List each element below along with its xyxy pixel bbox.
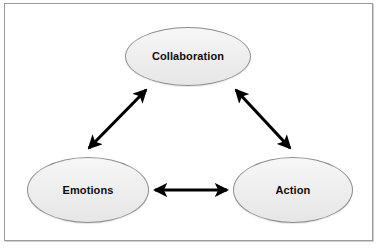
node-collaboration-label: Collaboration bbox=[152, 51, 224, 62]
diagram-canvas: Collaboration Emotions Action bbox=[0, 0, 380, 250]
connector-collaboration-action bbox=[236, 90, 290, 148]
connector-emotions-collaboration bbox=[89, 90, 146, 148]
node-collaboration[interactable]: Collaboration bbox=[125, 27, 251, 86]
node-emotions-label: Emotions bbox=[63, 185, 114, 196]
node-action[interactable]: Action bbox=[233, 157, 353, 223]
node-emotions[interactable]: Emotions bbox=[27, 157, 149, 223]
node-action-label: Action bbox=[276, 185, 311, 196]
